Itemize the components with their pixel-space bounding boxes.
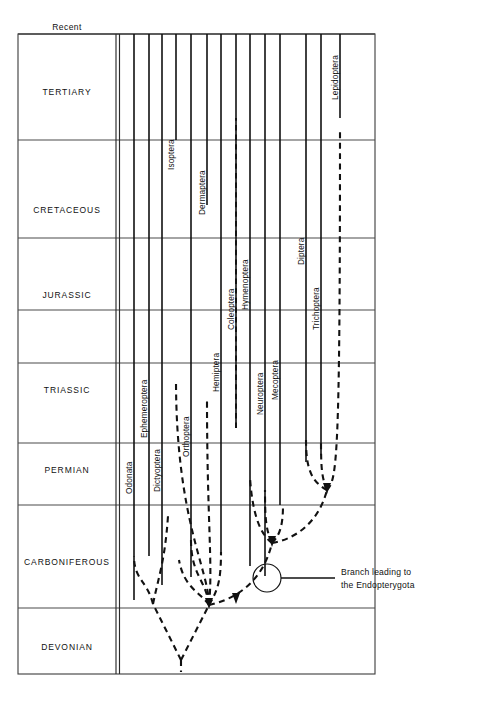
annotation-text-line1: Branch leading to [341,567,411,577]
order-label-diptera: Diptera [297,237,306,265]
annotation-text-line2: the Endopterygota [341,580,415,590]
order-labels: OdonataEphemeropteraDictyopteraOrthopter… [125,55,340,494]
phylogeny-time-chart: TERTIARYCRETACEOUSJURASSICTRIASSICPERMIA… [0,0,483,705]
chart-canvas: TERTIARYCRETACEOUSJURASSICTRIASSICPERMIA… [0,0,483,705]
order-label-lepidoptera: Lepidoptera [331,55,340,100]
branch-to-neuroptera [265,490,272,543]
branch-to-ephemeroptera [153,516,168,604]
arrowhead-orthoptera-join [232,593,240,604]
endopterygota-annotation: Branch leading to the Endopterygota [253,564,415,592]
order-range-lines [134,34,340,600]
phylogeny-branches [134,118,340,672]
branch-endopterygota-main [209,543,272,605]
order-label-odonata: Odonata [125,461,134,494]
order-label-mecoptera: Mecoptera [271,360,280,400]
branch-to-trichoptera [321,442,327,490]
order-label-neuroptera: Neuroptera [256,372,265,415]
branch-to-dictyoptera [179,560,209,605]
period-label-triassic: TRIASSIC [44,385,90,395]
period-label-jurassic: JURASSIC [42,290,91,300]
order-label-hemiptera: Hemiptera [212,353,221,392]
branch-to-hymenoptera [250,478,272,543]
recent-label: Recent [52,22,82,32]
order-label-coleoptera: Coleoptera [227,288,236,330]
period-label-carboniferous: CARBONIFEROUS [24,557,110,567]
order-label-ephemeroptera: Ephemeroptera [140,379,149,438]
annotation-circle [253,564,281,592]
branch-root-to-neoptera [181,605,209,660]
period-label-cretaceous: CRETACEOUS [33,205,100,215]
branch-to-odonata [134,556,153,604]
period-label-permian: PERMIAN [44,465,89,475]
branch-root-to-palaeoptera [153,604,181,660]
order-label-dictyoptera: Dictyoptera [153,449,162,492]
time-axis-double-line [116,34,120,674]
order-label-orthoptera: Orthoptera [182,416,191,457]
period-labels: TERTIARYCRETACEOUSJURASSICTRIASSICPERMIA… [24,87,110,652]
order-label-trichoptera: Trichoptera [312,287,321,330]
order-label-isoptera: Isoptera [167,139,176,170]
period-label-devonian: DEVONIAN [41,642,93,652]
order-label-dermaptera: Dermaptera [198,170,207,215]
branch-to-dermaptera [207,400,210,605]
period-label-tertiary: TERTIARY [43,87,92,97]
branch-to-diptera [306,440,327,490]
order-label-hymenoptera: Hymenoptera [241,259,250,310]
